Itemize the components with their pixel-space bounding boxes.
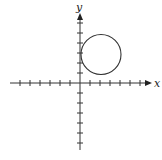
coordinate-plane: x y [0, 0, 162, 160]
x-axis-label: x [154, 77, 161, 90]
x-axis-arrow-icon [145, 80, 152, 86]
y-axis-arrow-icon [77, 13, 83, 20]
y-axis-label: y [75, 1, 83, 14]
circle-shape [81, 35, 121, 75]
